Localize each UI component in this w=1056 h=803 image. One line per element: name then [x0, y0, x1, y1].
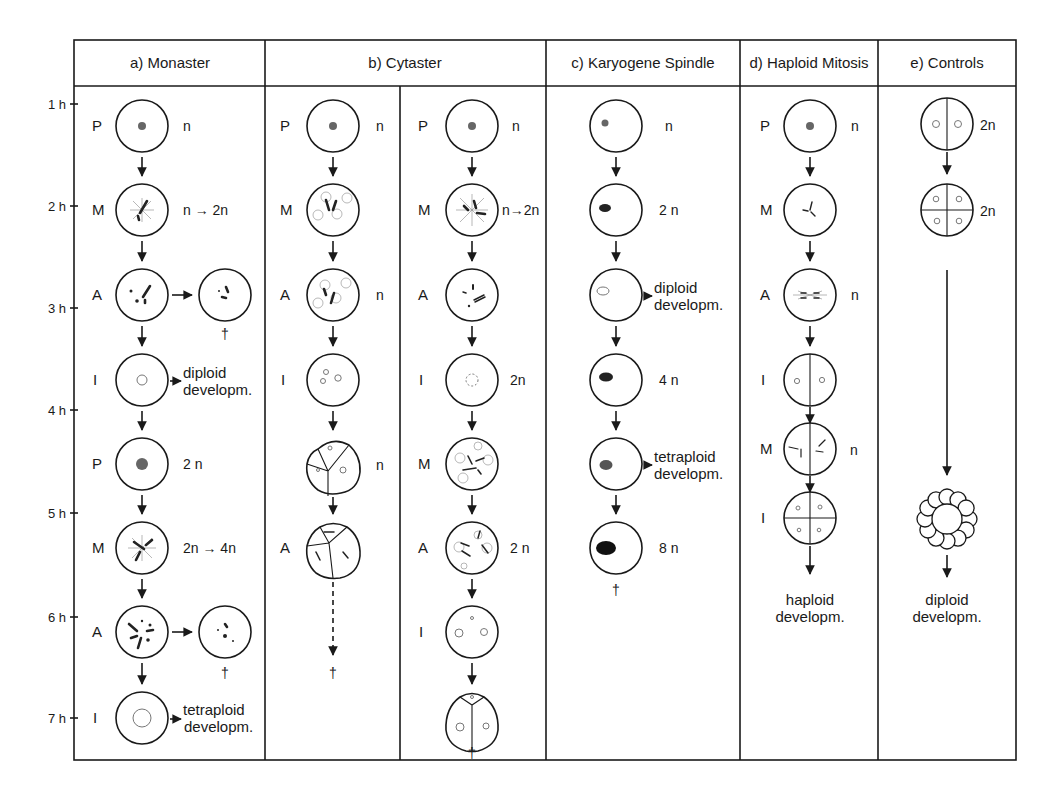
control-blastula	[917, 489, 977, 549]
column-karyogene-spindle: n 2 n diploid developm. 4 n tetraploid d…	[590, 100, 723, 598]
three-cell-embryo-right	[446, 694, 498, 752]
two-cell-metaphase	[784, 423, 836, 475]
svg-text:diploid: diploid	[654, 279, 697, 296]
svg-text:8 n: 8 n	[659, 540, 678, 556]
svg-text:P: P	[418, 117, 428, 134]
svg-text:developm.: developm.	[654, 465, 723, 482]
svg-text:P: P	[92, 455, 102, 472]
three-cell-embryo	[307, 441, 360, 496]
svg-text:3 h: 3 h	[48, 301, 66, 316]
svg-text:n: n	[376, 457, 384, 473]
svg-text:2n → 4n: 2n → 4n	[183, 540, 236, 556]
header-haploid-mitosis: d) Haploid Mitosis	[749, 54, 868, 71]
death-symbol: †	[221, 665, 229, 681]
control-two-cell	[921, 98, 973, 150]
svg-text:4 h: 4 h	[48, 403, 66, 418]
column-haploid-mitosis: P n M A n I M n I	[760, 100, 859, 625]
svg-text:n: n	[376, 118, 384, 134]
svg-text:I: I	[93, 709, 97, 726]
svg-text:developm.: developm.	[912, 608, 981, 625]
cell-aborted-1	[199, 269, 251, 321]
svg-text:A: A	[418, 286, 428, 303]
svg-text:2 h: 2 h	[48, 199, 66, 214]
svg-text:n: n	[851, 118, 859, 134]
svg-text:P: P	[760, 117, 770, 134]
svg-text:2n: 2n	[510, 372, 526, 388]
svg-text:P: P	[280, 117, 290, 134]
svg-text:4 n: 4 n	[659, 372, 678, 388]
column-controls: 2n 2n diploid developm.	[912, 98, 995, 625]
svg-text:I: I	[93, 371, 97, 388]
svg-text:diploid: diploid	[925, 591, 968, 608]
svg-text:A: A	[92, 286, 102, 303]
svg-text:A: A	[92, 623, 102, 640]
control-four-cell	[921, 184, 973, 236]
svg-text:I: I	[761, 509, 765, 526]
three-cell-anaphase	[307, 524, 360, 579]
svg-text:haploid: haploid	[786, 591, 834, 608]
column-monaster: P n M n → 2n A † I diploid developm.	[92, 100, 253, 744]
cell-anaphase-2n	[116, 606, 168, 658]
chromatin-dot	[138, 122, 146, 130]
svg-text:2n: 2n	[980, 203, 996, 219]
death-symbol: †	[221, 326, 229, 342]
cell-aborted-2	[199, 606, 251, 658]
svg-text:I: I	[419, 623, 423, 640]
svg-text:M: M	[760, 201, 773, 218]
death-symbol: †	[612, 582, 620, 598]
svg-text:I: I	[761, 371, 765, 388]
column-cytaster-right: P n M n→2n A I 2n M A 2 n I	[418, 100, 539, 761]
svg-text:n: n	[665, 118, 673, 134]
svg-text:M: M	[418, 455, 431, 472]
svg-text:M: M	[92, 539, 105, 556]
svg-text:developm.: developm.	[654, 296, 723, 313]
header-controls: e) Controls	[910, 54, 983, 71]
svg-text:5 h: 5 h	[48, 506, 66, 521]
svg-text:n: n	[851, 287, 859, 303]
svg-text:2n: 2n	[980, 117, 996, 133]
svg-text:n: n	[183, 118, 191, 134]
svg-text:A: A	[418, 539, 428, 556]
header-cytaster: b) Cytaster	[368, 54, 441, 71]
four-cell-embryo	[784, 492, 836, 544]
svg-text:tetraploid: tetraploid	[654, 448, 716, 465]
column-cytaster-left: P n M A n I n A	[280, 100, 384, 681]
svg-text:n: n	[512, 118, 520, 134]
svg-text:diploid: diploid	[183, 364, 226, 381]
svg-text:M: M	[92, 201, 105, 218]
svg-text:n → 2n: n → 2n	[183, 202, 228, 218]
svg-text:A: A	[280, 539, 290, 556]
svg-text:P: P	[92, 117, 102, 134]
death-symbol: †	[468, 745, 476, 761]
svg-text:n→2n: n→2n	[502, 202, 539, 218]
svg-text:M: M	[418, 201, 431, 218]
svg-text:2 n: 2 n	[510, 540, 529, 556]
svg-text:M: M	[280, 201, 293, 218]
svg-text:M: M	[760, 440, 773, 457]
svg-text:developm.: developm.	[775, 608, 844, 625]
embryo-development-diagram: a) Monaster b) Cytaster c) Karyogene Spi…	[0, 0, 1056, 803]
svg-text:2 n: 2 n	[183, 456, 202, 472]
svg-text:A: A	[280, 286, 290, 303]
svg-text:developm.: developm.	[183, 381, 252, 398]
svg-text:developm.: developm.	[184, 718, 253, 735]
death-symbol: †	[329, 665, 337, 681]
svg-text:2 n: 2 n	[659, 202, 678, 218]
svg-text:n: n	[376, 287, 384, 303]
header-karyogene-spindle: c) Karyogene Spindle	[571, 54, 714, 71]
svg-text:I: I	[281, 371, 285, 388]
svg-text:tetraploid: tetraploid	[183, 701, 245, 718]
svg-text:n: n	[850, 442, 858, 458]
svg-text:6 h: 6 h	[48, 610, 66, 625]
svg-text:1 h: 1 h	[48, 97, 66, 112]
two-cell-embryo	[784, 354, 836, 406]
svg-text:A: A	[760, 286, 770, 303]
header-monaster: a) Monaster	[130, 54, 210, 71]
svg-text:I: I	[419, 371, 423, 388]
svg-text:7 h: 7 h	[48, 711, 66, 726]
column-headers: a) Monaster b) Cytaster c) Karyogene Spi…	[130, 54, 984, 71]
cell-anaphase	[116, 269, 168, 321]
